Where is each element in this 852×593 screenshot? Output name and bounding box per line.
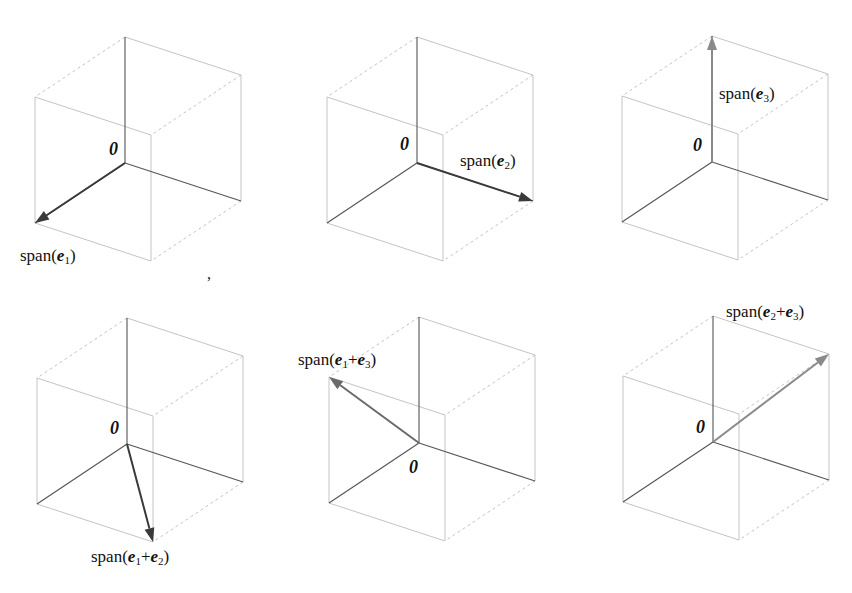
cube-edge [35, 97, 151, 135]
cube-span-e3 [622, 36, 828, 260]
origin-label: 0 [400, 135, 409, 153]
span-label-span-e1: span(e1) [20, 247, 76, 264]
origin-label: 0 [409, 458, 418, 476]
cube-edge-dashed [35, 37, 125, 97]
cube-edge-dashed [445, 355, 535, 415]
origin-label: 0 [696, 418, 705, 436]
cube-edge-dashed [153, 356, 243, 416]
cube-edge-dashed [443, 201, 533, 261]
axis-e2 [713, 442, 829, 480]
cube-edge-dashed [622, 36, 712, 96]
axis-e1 [329, 443, 419, 503]
cube-span-e1 [35, 37, 241, 261]
cube-edge [417, 37, 533, 75]
label-text: ) [164, 547, 170, 566]
axis-e2 [125, 163, 241, 201]
span-arrow-shaft [127, 444, 149, 528]
span-label-span-e3: span(e3) [719, 85, 775, 102]
axis-e1 [623, 442, 713, 502]
label-text: ) [371, 350, 377, 369]
arrowhead-icon [707, 36, 717, 50]
cube-edge-dashed [37, 318, 127, 378]
span-label-span-e1-plus-e2: span(e1+e2) [91, 548, 169, 565]
cube-edge [712, 36, 828, 74]
cube-edge-dashed [151, 75, 241, 135]
span-arrow-shaft [713, 362, 818, 442]
arrowhead-icon [815, 354, 829, 366]
label-text: ) [70, 246, 76, 265]
label-text: span( [460, 151, 497, 170]
label-text: ) [510, 151, 516, 170]
cube-edge [419, 317, 535, 355]
cube-edge [623, 502, 739, 540]
arrowhead-icon [518, 192, 533, 202]
span-label-span-e2-plus-e3: span(e2+e3) [726, 303, 804, 320]
label-text: span( [298, 350, 335, 369]
cube-edge-dashed [738, 74, 828, 134]
cube-span-e2 [327, 37, 533, 261]
cube-edge [327, 97, 443, 135]
cube-edge-dashed [445, 481, 535, 541]
cube-edge-dashed [327, 37, 417, 97]
cubes-layer [35, 36, 829, 542]
vector-symbol: e [150, 547, 158, 566]
cube-edge [622, 222, 738, 260]
cube-edge-dashed [738, 200, 828, 260]
vector-symbol: e [785, 302, 793, 321]
label-text: span( [726, 302, 763, 321]
axis-e2 [712, 162, 828, 200]
cube-edge-dashed [153, 482, 243, 542]
vector-symbol: e [357, 350, 365, 369]
label-text: span( [91, 547, 128, 566]
cube-edge [623, 376, 739, 414]
cube-span-e2-plus-e3 [623, 316, 829, 540]
cube-span-e1-plus-e2 [37, 318, 243, 542]
span-label-span-e2: span(e2) [460, 152, 516, 169]
cube-edge [327, 223, 443, 261]
label-text: ) [799, 302, 805, 321]
cube-edge [37, 504, 153, 542]
span-arrow-shaft [47, 163, 125, 215]
axis-e1 [622, 162, 712, 222]
cube-edge [37, 378, 153, 416]
arrowhead-icon [35, 211, 49, 223]
cube-edge [125, 37, 241, 75]
axis-e1 [327, 163, 417, 223]
span-label-span-e1-plus-e3: span(e1+e3) [298, 351, 376, 368]
separator-comma: , [207, 266, 211, 282]
label-text: span( [719, 84, 756, 103]
cube-edge-dashed [151, 201, 241, 261]
axis-e1 [37, 444, 127, 504]
label-text: span( [20, 246, 57, 265]
origin-label: 0 [109, 140, 118, 158]
cube-edge-dashed [739, 480, 829, 540]
origin-label: 0 [693, 136, 702, 154]
cube-edge [329, 503, 445, 541]
cube-edge [127, 318, 243, 356]
cube-edge-dashed [623, 316, 713, 376]
axis-e2 [419, 443, 535, 481]
origin-label: 0 [110, 419, 119, 437]
label-text: ) [769, 84, 775, 103]
cube-edge [329, 377, 445, 415]
cube-edge-dashed [443, 75, 533, 135]
axis-e2 [127, 444, 243, 482]
